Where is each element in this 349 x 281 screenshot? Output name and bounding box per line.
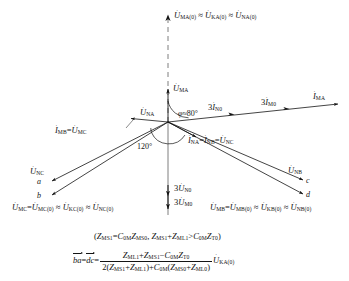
formula-main: ba=dc=ZML1+ZMS1−C0MZT02(ZMS1+ZML1)+C0M(Z…: [73, 250, 234, 272]
label-point-b: b: [37, 192, 41, 200]
label-angle-phi: φ≈80°: [178, 110, 198, 118]
dot-accent: ˙: [215, 253, 217, 260]
dot-accent: ˙: [313, 90, 315, 97]
dot-accent: ˙: [14, 201, 16, 208]
label-i-ma: ˙IMA: [313, 92, 325, 102]
dot-accent: ˙: [213, 101, 215, 108]
label-3i-m0: 3˙IM0: [261, 98, 276, 108]
dot-accent: ˙: [207, 9, 209, 16]
dot-accent: ˙: [290, 164, 292, 171]
label-u-nb: ˙UNB: [288, 166, 302, 176]
dot-accent: ˙: [237, 9, 239, 16]
formula-condition: (ZMS1=C0MZMS0, ZMS1+ZML1>C0MZT0): [94, 231, 221, 241]
dot-accent: ˙: [263, 201, 265, 208]
label-u-mc-chain: ˙UMC=˙UMC(0) ≈ ˙UKC(0) ≈ ˙UNC(0): [12, 203, 113, 213]
phasor-diagram: ˙UMA(0) ≈ ˙UKA(0) ≈ ˙UNA(0) ˙UMA ˙UNA φ≈…: [0, 0, 349, 281]
label-u-mb-chain: ˙UMB=˙UMB(0) ≈ ˙UKB(0) ≈ ˙UNB(0): [210, 203, 311, 213]
dot-accent: ˙: [142, 106, 144, 113]
dot-accent: ˙: [204, 134, 206, 141]
label-i-na-i-nb-u-nc: ˙INA=˙INB=˙UNC: [188, 136, 234, 146]
leader-line-i-mb: [126, 120, 133, 128]
phasor-i-mb-u-mc: [131, 119, 168, 123]
label-3u-m0: 3˙UM0: [174, 198, 192, 208]
dot-accent: ˙: [232, 201, 234, 208]
dot-accent: ˙: [175, 82, 177, 89]
vector-arrow-overbar: [86, 251, 95, 254]
dot-accent: ˙: [94, 201, 96, 208]
label-u-na: ˙UNA: [140, 108, 154, 118]
dot-accent: ˙: [32, 165, 34, 172]
dot-accent: ˙: [266, 96, 268, 103]
label-3i-n0: 3˙IN0: [208, 103, 222, 113]
label-i-mb-u-mc: ˙IMB=˙UMC: [55, 126, 87, 136]
dot-accent: ˙: [292, 201, 294, 208]
label-u-nc: ˙UNC: [30, 167, 44, 177]
label-angle-120: 120°: [137, 143, 152, 151]
label-point-a: a: [37, 178, 41, 186]
label-3u-n0: 3˙UN0: [174, 184, 191, 194]
label-point-c: c: [306, 177, 310, 185]
label-point-d: d: [306, 191, 310, 199]
dot-accent: ˙: [55, 124, 57, 131]
phasor-u-nb-point-c: [168, 122, 303, 180]
dot-accent: ˙: [212, 201, 214, 208]
dot-accent: ˙: [34, 201, 36, 208]
dot-accent: ˙: [176, 9, 178, 16]
vector-arrow-overbar: [73, 251, 83, 254]
dot-accent: ˙: [221, 134, 223, 141]
dot-accent: ˙: [180, 182, 182, 189]
dot-accent: ˙: [65, 201, 67, 208]
dot-accent: ˙: [73, 124, 75, 131]
label-u-ma: ˙UMA: [173, 84, 188, 94]
fraction-numerator: ZML1+ZMS1−C0MZT0: [100, 250, 212, 262]
fraction-denominator: 2(ZMS1+ZML1)+C0M(ZMS0+ZML0): [100, 262, 212, 273]
dot-accent: ˙: [180, 196, 182, 203]
dot-accent: ˙: [188, 134, 190, 141]
fraction: ZML1+ZMS1−C0MZT02(ZMS1+ZML1)+C0M(ZMS0+ZM…: [100, 250, 212, 272]
label-u-ma0-chain: ˙UMA(0) ≈ ˙UKA(0) ≈ ˙UNA(0): [174, 11, 257, 21]
